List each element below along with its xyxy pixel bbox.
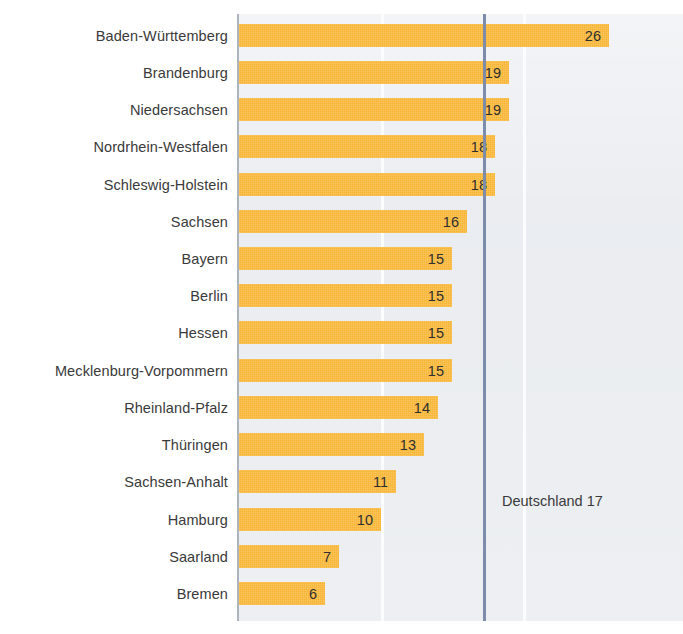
bar: 19 (239, 61, 509, 84)
bar-value-label: 7 (323, 549, 331, 565)
bar: 16 (239, 210, 467, 233)
bar: 26 (239, 24, 609, 47)
chart-row: Nordrhein-Westfalen 18 (0, 135, 683, 158)
bar: 14 (239, 396, 438, 419)
chart-row: Berlin 15 (0, 284, 683, 307)
chart-row: Rheinland-Pfalz 14 (0, 396, 683, 419)
category-label: Bremen (177, 586, 228, 602)
chart-row: Schleswig-Holstein 18 (0, 173, 683, 196)
category-label: Saarland (169, 549, 228, 565)
category-label: Brandenburg (143, 65, 228, 81)
national-average-line (483, 14, 486, 621)
chart-row: Bayern 15 (0, 247, 683, 270)
chart-row: Hessen 15 (0, 321, 683, 344)
bar-value-label: 14 (414, 400, 430, 416)
bar-value-label: 10 (357, 512, 373, 528)
category-label: Thüringen (162, 437, 228, 453)
national-average-label: Deutschland 17 (502, 493, 603, 509)
bar-value-label: 16 (443, 214, 459, 230)
y-axis-line (237, 14, 239, 621)
bar-value-label: 6 (309, 586, 317, 602)
chart-row: Saarland 7 (0, 545, 683, 568)
bar-value-label: 13 (400, 437, 416, 453)
bar: 15 (239, 321, 452, 344)
bar: 6 (239, 582, 325, 605)
bar: 7 (239, 545, 339, 568)
category-label: Schleswig-Holstein (104, 177, 228, 193)
chart-row: Mecklenburg-Vorpommern 15 (0, 359, 683, 382)
bar: 19 (239, 98, 509, 121)
bar: 10 (239, 508, 381, 531)
bar: 15 (239, 359, 452, 382)
gridline-20 (523, 14, 526, 621)
bar-value-label: 19 (485, 65, 501, 81)
category-label: Nordrhein-Westfalen (93, 139, 228, 155)
chart-row: Baden-Württemberg 26 (0, 24, 683, 47)
bar-chart: Deutschland 17 Baden-Württemberg 26 Bran… (0, 0, 683, 634)
bar: 15 (239, 247, 452, 270)
bar-value-label: 19 (485, 102, 501, 118)
category-label: Hamburg (168, 512, 228, 528)
chart-row: Sachsen 16 (0, 210, 683, 233)
bar: 11 (239, 470, 396, 493)
category-label: Bayern (181, 251, 228, 267)
bar: 18 (239, 135, 495, 158)
category-label: Niedersachsen (130, 102, 228, 118)
bar: 15 (239, 284, 452, 307)
category-label: Mecklenburg-Vorpommern (55, 363, 228, 379)
bar-value-label: 15 (428, 251, 444, 267)
category-label: Rheinland-Pfalz (124, 400, 228, 416)
bar-value-label: 26 (585, 28, 601, 44)
category-label: Sachsen (171, 214, 228, 230)
chart-row: Bremen 6 (0, 582, 683, 605)
chart-row: Thüringen 13 (0, 433, 683, 456)
bar-value-label: 15 (428, 288, 444, 304)
category-label: Hessen (178, 325, 228, 341)
category-label: Sachsen-Anhalt (124, 474, 228, 490)
bar: 18 (239, 173, 495, 196)
category-label: Baden-Württemberg (96, 28, 228, 44)
bar: 13 (239, 433, 424, 456)
bar-value-label: 11 (373, 474, 388, 490)
chart-row: Brandenburg 19 (0, 61, 683, 84)
chart-row: Niedersachsen 19 (0, 98, 683, 121)
chart-row: Sachsen-Anhalt 11 (0, 470, 683, 493)
bar-value-label: 15 (428, 363, 444, 379)
bar-value-label: 15 (428, 325, 444, 341)
chart-row: Hamburg 10 (0, 508, 683, 531)
category-label: Berlin (190, 288, 228, 304)
